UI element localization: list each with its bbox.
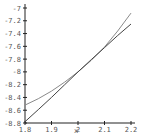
y-tick-label: -7.4	[4, 30, 21, 38]
y-axis: -7-7.2-7.4-7.6-7.8-8-8.2-8.4-8.6-8.8	[4, 4, 27, 128]
y-tick-label: -8.2	[4, 81, 21, 89]
y-tick-label: -8.6	[4, 107, 21, 115]
x-axis-label: x	[74, 127, 78, 135]
x-tick-label: 1.9	[45, 126, 58, 134]
x-tick-label: 1.8	[19, 126, 32, 134]
y-tick-label: -7.6	[4, 43, 21, 51]
y-tick-label: -8.4	[4, 94, 21, 102]
y-tick-label: -7	[13, 5, 21, 13]
curve-series	[25, 13, 131, 105]
plot-area	[25, 13, 131, 122]
chart: -7-7.2-7.4-7.6-7.8-8-8.2-8.4-8.6-8.8 1.8…	[0, 0, 148, 136]
y-tick-label: -7.2	[4, 17, 21, 25]
x-tick-label: 2.1	[98, 126, 111, 134]
tangent-line-series	[25, 24, 131, 122]
y-tick-label: -8	[13, 68, 21, 76]
y-tick-label: -7.8	[4, 56, 21, 64]
x-tick-label: 2.2	[125, 126, 138, 134]
